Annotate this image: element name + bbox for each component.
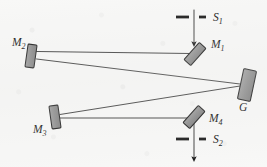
label-m1: M1	[210, 38, 225, 53]
beam-segment-M1-to-M2	[37, 52, 191, 54]
label-m4: M4	[208, 112, 223, 127]
label-m2: M2	[11, 36, 26, 51]
grating-g-group: G	[237, 68, 256, 113]
mirror-m3	[49, 105, 61, 129]
mirror-m3-group: M3	[32, 105, 61, 138]
beam-segment-M2-to-G	[37, 59, 241, 84]
beam-segment-G-to-M3	[60, 86, 240, 115]
entrance-slit-s1: S1	[176, 11, 223, 26]
diagram-canvas: S1 M1 M2 G M3	[0, 0, 267, 167]
label-s1: S1	[213, 11, 223, 26]
mirror-m2	[25, 44, 37, 68]
mirror-m1-group: M1	[184, 38, 225, 66]
label-s2: S2	[213, 133, 223, 148]
optical-diagram-figure: S1 M1 M2 G M3	[0, 0, 267, 167]
label-m3: M3	[32, 123, 47, 138]
label-g: G	[239, 101, 248, 113]
beam-path-group	[37, 10, 241, 159]
mirror-m4-group: M4	[183, 105, 223, 128]
diffraction-grating-g	[237, 68, 256, 101]
mirror-m2-group: M2	[11, 36, 37, 68]
exit-slit-s2: S2	[176, 133, 223, 148]
mirror-m1	[184, 42, 206, 65]
